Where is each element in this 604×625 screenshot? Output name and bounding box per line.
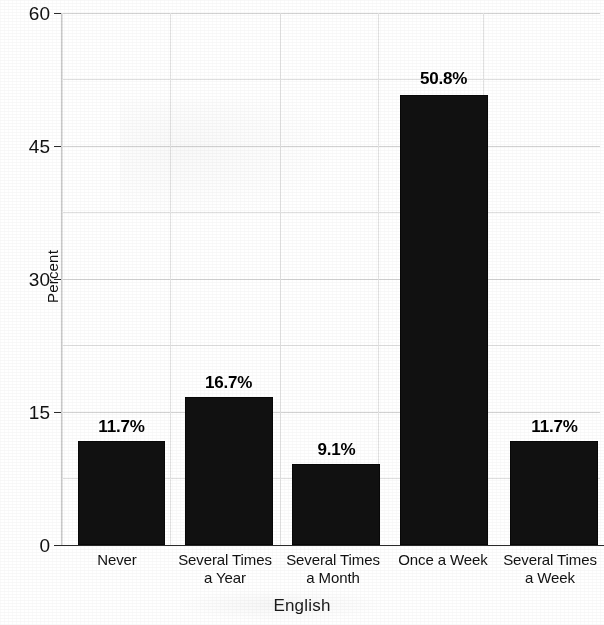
- gridline-52-5: [62, 79, 600, 80]
- gridline-v-0: [62, 13, 63, 545]
- x-category-label-several-times-a-month-line2: a Month: [278, 569, 388, 587]
- x-category-label-several-times-a-week-line1: Several Times: [495, 551, 604, 569]
- x-category-label-several-times-a-week: Several Times a Week: [495, 551, 604, 587]
- bar-several-times-a-week[interactable]: [510, 441, 598, 545]
- x-category-label-once-a-week-line1: Once a Week: [387, 551, 499, 569]
- bar-several-times-a-year[interactable]: [185, 397, 273, 545]
- gridline-v-2: [280, 13, 281, 545]
- y-tick-label-30: 30: [0, 269, 50, 291]
- bar-never[interactable]: [78, 441, 165, 545]
- y-tick-label-0: 0: [0, 535, 50, 557]
- gridline-60: [62, 13, 600, 14]
- x-axis-title: English: [0, 596, 604, 616]
- bar-value-several-times-a-year: 16.7%: [176, 373, 281, 393]
- x-category-label-never-line1: Never: [62, 551, 172, 569]
- bar-chart: Percent 60 45 30 15 0 11.7%: [0, 0, 604, 625]
- gridline-15: [62, 412, 600, 413]
- x-category-label-several-times-a-month-line1: Several Times: [278, 551, 388, 569]
- gridline-v-1: [170, 13, 171, 545]
- plot-area: 11.7% 16.7% 9.1% 50.8% 11.7%: [62, 13, 600, 545]
- x-axis-line: [56, 545, 604, 546]
- x-category-label-several-times-a-week-line2: a Week: [495, 569, 604, 587]
- x-category-label-several-times-a-month: Several Times a Month: [278, 551, 388, 587]
- bar-value-never: 11.7%: [69, 417, 174, 437]
- bar-several-times-a-month[interactable]: [292, 464, 380, 545]
- x-category-label-never: Never: [62, 551, 172, 569]
- bar-value-several-times-a-month: 9.1%: [284, 440, 389, 460]
- bar-value-several-times-a-week: 11.7%: [502, 417, 604, 437]
- x-category-label-several-times-a-year-line1: Several Times: [170, 551, 280, 569]
- y-tick-label-60: 60: [0, 3, 50, 25]
- gridline-22-5: [62, 345, 600, 346]
- gridline-30: [62, 279, 600, 280]
- x-category-label-several-times-a-year: Several Times a Year: [170, 551, 280, 587]
- y-tick-label-15: 15: [0, 402, 50, 424]
- gridline-45: [62, 146, 600, 147]
- gridline-37-5: [62, 212, 600, 213]
- bar-once-a-week[interactable]: [400, 95, 488, 545]
- x-category-label-once-a-week: Once a Week: [387, 551, 499, 569]
- bar-value-once-a-week: 50.8%: [391, 69, 496, 89]
- y-tick-label-45: 45: [0, 136, 50, 158]
- x-category-label-several-times-a-year-line2: a Year: [170, 569, 280, 587]
